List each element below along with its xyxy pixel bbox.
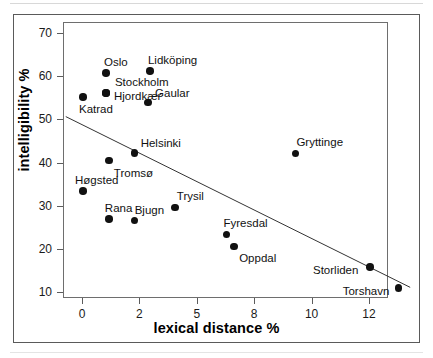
scatter-point-label: Høgsted — [75, 175, 118, 187]
scatter-point — [102, 69, 110, 77]
scatter-point-label: Tromsø — [114, 168, 153, 180]
x-axis-title: lexical distance % — [0, 320, 433, 336]
scatter-point-label: Oppdal — [239, 253, 276, 265]
scatter-point — [131, 149, 139, 157]
y-axis-title: intelligibility % — [16, 50, 32, 190]
scatter-point — [105, 157, 113, 165]
y-axis-tick-label: 50 — [39, 112, 52, 126]
y-axis-tick-label: 10 — [39, 285, 52, 299]
scatter-point — [230, 243, 238, 251]
scatter-point-label: Torshavn — [343, 286, 390, 298]
scatter-point-label: Oslo — [104, 57, 128, 69]
y-axis-tick-label: 60 — [39, 69, 52, 83]
top-divider-rule — [10, 3, 423, 4]
x-axis-tick-label: 5 — [193, 307, 200, 321]
scatter-point — [79, 93, 87, 101]
plot-area: KatradOsloStockholmHjordkærLidköpingGaul… — [63, 22, 388, 298]
y-axis-tick-label: 40 — [39, 156, 52, 170]
scatter-point — [146, 67, 154, 75]
figure-container: intelligibility % lexical distance % 102… — [0, 0, 433, 358]
scatter-point-label: Gaular — [155, 88, 190, 100]
scatter-point-label: Lidköping — [148, 55, 197, 67]
scatter-point-label: Rana — [105, 203, 133, 215]
scatter-point — [395, 284, 403, 292]
scatter-point-label: Trysil — [177, 191, 204, 203]
scatter-point — [144, 99, 152, 107]
x-axis-tick-label: 8 — [251, 307, 258, 321]
y-axis-tick-label: 20 — [39, 242, 52, 256]
y-axis-tick-label: 70 — [39, 26, 52, 40]
scatter-point — [105, 215, 113, 223]
x-axis-tick-label: 2 — [136, 307, 143, 321]
scatter-point-label: Gryttinge — [296, 137, 343, 149]
x-axis-tick-label: 0 — [79, 307, 86, 321]
scatter-point-label: Helsinki — [141, 138, 181, 150]
scatter-point — [366, 263, 374, 271]
plot-inner: KatradOsloStockholmHjordkærLidköpingGaul… — [64, 23, 387, 297]
scatter-point — [102, 89, 110, 97]
x-axis-tick-label: 12 — [362, 307, 375, 321]
y-axis-tick-label: 30 — [39, 199, 52, 213]
scatter-point-label: Fyresdal — [224, 218, 268, 230]
scatter-point-label: Storliden — [313, 265, 358, 277]
bottom-divider-rule — [10, 352, 423, 353]
scatter-point-label: Katrad — [79, 104, 113, 116]
scatter-point — [79, 187, 87, 195]
scatter-point — [171, 204, 179, 212]
scatter-point-label: Bjugn — [135, 205, 164, 217]
x-axis-tick-label: 10 — [305, 307, 318, 321]
